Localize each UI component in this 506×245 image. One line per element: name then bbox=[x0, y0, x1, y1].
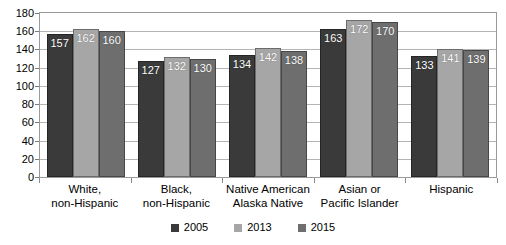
bar: 139 bbox=[463, 50, 489, 177]
y-axis-tick-mark bbox=[35, 68, 39, 69]
bar: 172 bbox=[346, 20, 372, 177]
bar: 138 bbox=[281, 51, 307, 177]
chart-legend: 200520132015 bbox=[0, 222, 506, 233]
bar: 133 bbox=[411, 56, 437, 177]
y-axis-tick-mark bbox=[35, 159, 39, 160]
category-label-line: Alaska Native bbox=[222, 197, 314, 211]
y-axis-tick-label: 60 bbox=[22, 117, 34, 128]
bar: 163 bbox=[320, 29, 346, 178]
y-axis-tick-mark bbox=[35, 104, 39, 105]
x-axis-category-label: Black,non-Hispanic bbox=[131, 183, 223, 210]
bar: 127 bbox=[138, 61, 164, 177]
y-axis-tick-label: 100 bbox=[16, 80, 34, 91]
bar-value-label: 134 bbox=[233, 59, 251, 70]
x-axis-tick-mark bbox=[39, 178, 40, 183]
x-axis-tick-mark bbox=[405, 178, 406, 183]
bar-value-label: 132 bbox=[168, 61, 186, 72]
y-axis-tick-mark bbox=[35, 49, 39, 50]
x-axis-category-labels: White,non-HispanicBlack,non-HispanicNati… bbox=[39, 183, 497, 215]
bar-value-label: 141 bbox=[441, 53, 459, 64]
bar-value-label: 139 bbox=[467, 54, 485, 65]
y-axis: 180160140120100806040200 bbox=[0, 12, 39, 178]
bar-value-label: 142 bbox=[259, 52, 277, 63]
x-axis-category-label: Asian orPacific Islander bbox=[314, 183, 406, 210]
bar-value-label: 163 bbox=[324, 33, 342, 44]
y-axis-tick-label: 180 bbox=[16, 8, 34, 19]
bar-value-label: 160 bbox=[102, 35, 120, 46]
y-axis-tick-label: 140 bbox=[16, 44, 34, 55]
legend-item[interactable]: 2015 bbox=[298, 222, 335, 233]
y-axis-tick-mark bbox=[35, 13, 39, 14]
legend-item[interactable]: 2005 bbox=[171, 222, 208, 233]
x-axis-tick-mark bbox=[314, 178, 315, 183]
bar: 132 bbox=[164, 57, 190, 177]
bar-group: 133141139 bbox=[405, 13, 496, 177]
legend-swatch-icon bbox=[171, 224, 179, 232]
bar-value-label: 172 bbox=[350, 24, 368, 35]
y-axis-tick-label: 160 bbox=[16, 26, 34, 37]
bar: 141 bbox=[437, 49, 463, 177]
legend-item[interactable]: 2013 bbox=[234, 222, 271, 233]
category-label-line: White, bbox=[39, 183, 131, 197]
bar-group: 127132130 bbox=[131, 13, 222, 177]
category-label-line: non-Hispanic bbox=[131, 197, 223, 211]
bar-value-label: 130 bbox=[194, 63, 212, 74]
bar-value-label: 127 bbox=[142, 65, 160, 76]
bar-value-label: 170 bbox=[376, 26, 394, 37]
y-axis-tick-label: 120 bbox=[16, 62, 34, 73]
bar: 130 bbox=[190, 59, 216, 177]
legend-label: 2013 bbox=[247, 222, 271, 233]
category-label-line: Native American bbox=[222, 183, 314, 197]
bar: 160 bbox=[99, 31, 125, 177]
legend-label: 2005 bbox=[184, 222, 208, 233]
bar: 134 bbox=[229, 55, 255, 177]
category-label-line: Asian or bbox=[314, 183, 406, 197]
x-axis-tick-mark bbox=[222, 178, 223, 183]
bar-value-label: 162 bbox=[76, 33, 94, 44]
x-axis-category-label: Hispanic bbox=[405, 183, 497, 197]
bar: 142 bbox=[255, 48, 281, 177]
category-label-line: Pacific Islander bbox=[314, 197, 406, 211]
y-axis-tick-mark bbox=[35, 122, 39, 123]
bar-group: 163172170 bbox=[314, 13, 405, 177]
bar-chart: 180160140120100806040200 157162160127132… bbox=[0, 0, 506, 245]
y-axis-tick-label: 20 bbox=[22, 153, 34, 164]
bar: 157 bbox=[47, 34, 73, 177]
bars-layer: 1571621601271321301341421381631721701331… bbox=[40, 13, 496, 177]
x-axis-category-label: Native AmericanAlaska Native bbox=[222, 183, 314, 210]
y-axis-tick-mark bbox=[35, 86, 39, 87]
x-axis-category-label: White,non-Hispanic bbox=[39, 183, 131, 210]
bar-group: 157162160 bbox=[40, 13, 131, 177]
legend-label: 2015 bbox=[311, 222, 335, 233]
y-axis-tick-mark bbox=[35, 31, 39, 32]
category-label-line: Black, bbox=[131, 183, 223, 197]
bar: 170 bbox=[372, 22, 398, 177]
bar-group: 134142138 bbox=[222, 13, 313, 177]
y-axis-tick-label: 80 bbox=[22, 99, 34, 110]
legend-swatch-icon bbox=[298, 224, 306, 232]
bar-value-label: 138 bbox=[285, 55, 303, 66]
bar-value-label: 133 bbox=[415, 60, 433, 71]
bar-value-label: 157 bbox=[50, 38, 68, 49]
bar: 162 bbox=[73, 29, 99, 177]
category-label-line: Hispanic bbox=[405, 183, 497, 197]
y-axis-tick-mark bbox=[35, 141, 39, 142]
category-label-line: non-Hispanic bbox=[39, 197, 131, 211]
x-axis-tick-mark bbox=[497, 178, 498, 183]
legend-swatch-icon bbox=[234, 224, 242, 232]
x-axis-tick-mark bbox=[131, 178, 132, 183]
y-axis-tick-label: 40 bbox=[22, 135, 34, 146]
y-axis-tick-label: 0 bbox=[28, 172, 34, 183]
